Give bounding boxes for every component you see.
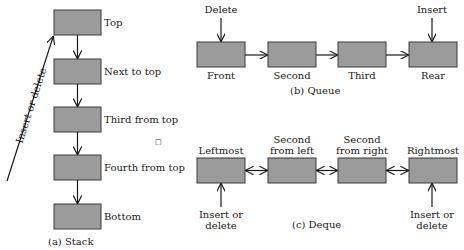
deque-label-second-right-l2: from right <box>330 145 394 156</box>
queue-label-rear: Rear <box>409 70 457 81</box>
deque-box-second-left <box>268 158 316 183</box>
queue-delete-label: Delete <box>201 4 241 15</box>
queue-diagram <box>197 18 457 67</box>
deque-left-op-l2: delete <box>191 220 251 231</box>
deque-caption: (c) Deque <box>292 219 341 230</box>
stack-caption: (a) Stack <box>48 236 93 247</box>
deque-label-rightmost: Rightmost <box>401 145 464 156</box>
deque-right-op-l2: delete <box>402 220 462 231</box>
stack-box-fourth <box>54 155 101 180</box>
queue-box-front <box>197 42 245 67</box>
stray-mark: □ <box>155 137 162 148</box>
queue-label-front: Front <box>197 70 245 81</box>
queue-box-rear <box>409 42 457 67</box>
deque-right-op-l1: Insert or <box>402 209 462 220</box>
deque-label-leftmost: Leftmost <box>191 145 251 156</box>
deque-label-second-left-l1: Second <box>262 134 322 145</box>
deque-left-op-l1: Insert or <box>191 209 251 220</box>
queue-label-second: Second <box>268 70 316 81</box>
stack-box-third <box>54 107 101 132</box>
deque-label-second-left-l2: from left <box>262 145 322 156</box>
deque-label-second-right-l1: Second <box>330 134 394 145</box>
stack-box-top <box>54 10 101 35</box>
deque-diagram <box>197 158 457 207</box>
stack-label-bottom: Bottom <box>104 211 141 222</box>
stack-box-next <box>54 59 101 84</box>
deque-box-leftmost <box>197 158 245 183</box>
queue-caption: (b) Queue <box>290 85 340 96</box>
queue-box-third <box>338 42 386 67</box>
stack-label-next: Next to top <box>104 66 161 77</box>
stack-label-fourth: Fourth from top <box>104 162 185 173</box>
stack-label-third: Third from top <box>104 114 178 125</box>
stack-box-bottom <box>54 204 101 229</box>
stack-label-top: Top <box>104 17 122 28</box>
deque-box-rightmost <box>409 158 457 183</box>
queue-insert-label: Insert <box>412 4 452 15</box>
deque-box-second-right <box>338 158 386 183</box>
queue-box-second <box>268 42 316 67</box>
queue-label-third: Third <box>338 70 386 81</box>
